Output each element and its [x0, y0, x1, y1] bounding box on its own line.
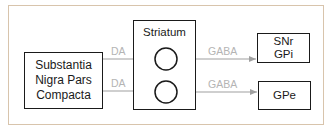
striatum-neuron-top	[155, 48, 177, 70]
da-label-top: DA	[111, 45, 126, 57]
snr-gpi-box: SNr GPi	[257, 33, 310, 63]
gaba-label-bottom: GABA	[208, 78, 237, 90]
striatum-neurons	[0, 0, 329, 132]
striatum-neuron-bottom	[155, 81, 177, 103]
da-label-bottom: DA	[111, 77, 126, 89]
snr-gpi-label: SNr GPi	[274, 35, 294, 61]
gpe-box: GPe	[258, 81, 311, 110]
gaba-label-top: GABA	[208, 45, 237, 57]
gpe-label: GPe	[273, 88, 296, 103]
